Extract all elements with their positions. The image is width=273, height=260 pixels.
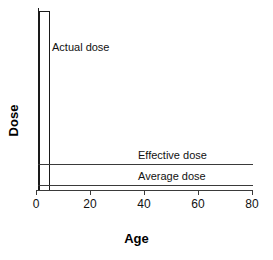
x-tick-60 [198,191,199,195]
x-tick-label-40: 40 [124,197,164,211]
y-axis-title: Dose [6,91,21,151]
annotation-effective-dose: Effective dose [138,149,207,161]
x-tick-label-60: 60 [178,197,218,211]
reference-line-effective-dose [38,164,253,165]
x-tick-label-20: 20 [70,197,110,211]
x-tick-label-0: 0 [16,197,56,211]
plot-area: 0 20 40 60 80 Actual dose Effective dose… [0,0,273,260]
x-tick-40 [144,191,145,195]
annotation-actual-dose: Actual dose [52,41,109,53]
reference-line-average-dose [38,185,253,186]
dose-vs-age-chart: 0 20 40 60 80 Actual dose Effective dose… [0,0,273,260]
x-tick-20 [90,191,91,195]
x-tick-label-80: 80 [232,197,272,211]
x-axis-title: Age [0,231,273,246]
annotation-average-dose: Average dose [138,170,206,182]
x-tick-80 [252,191,253,195]
x-tick-0 [36,191,37,195]
